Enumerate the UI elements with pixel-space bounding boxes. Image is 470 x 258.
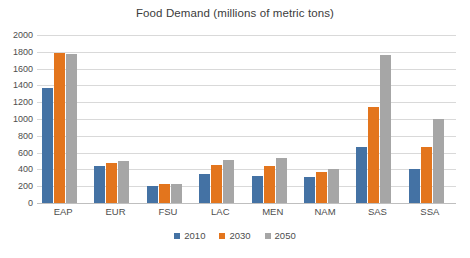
- legend-item[interactable]: 2010: [174, 230, 205, 241]
- legend-label: 2030: [229, 230, 250, 241]
- bar: [421, 147, 432, 203]
- y-axis-tick-label: 1000: [0, 115, 33, 124]
- chart-title: Food Demand (millions of metric tons): [0, 7, 470, 19]
- y-axis-tick-label: 1600: [0, 64, 33, 73]
- legend-item[interactable]: 2050: [265, 230, 296, 241]
- x-axis-tick-label: SAS: [351, 206, 403, 217]
- bar: [252, 176, 263, 203]
- y-axis-tick-label: 400: [0, 165, 33, 174]
- y-axis-tick-label: 600: [0, 148, 33, 157]
- bar-group: [194, 35, 246, 203]
- y-axis-tick-label: 0: [0, 199, 33, 208]
- bar-chart: Food Demand (millions of metric tons) 20…: [0, 0, 470, 258]
- bar: [433, 119, 444, 203]
- x-axis-tick-label: FSU: [142, 206, 194, 217]
- bar: [356, 147, 367, 203]
- bar: [171, 184, 182, 203]
- legend-swatch-icon: [219, 233, 225, 239]
- y-axis-tick-label: 1200: [0, 98, 33, 107]
- bar: [199, 174, 210, 203]
- x-axis: EAPEURFSULACMENNAMSASSSA: [37, 206, 456, 222]
- chart-legend: 201020302050: [0, 230, 470, 241]
- bar: [328, 169, 339, 203]
- bar: [211, 165, 222, 203]
- bar-group: [351, 35, 403, 203]
- bar: [223, 160, 234, 203]
- y-axis-tick-label: 1800: [0, 47, 33, 56]
- axis-baseline: [37, 203, 456, 204]
- bar-group: [37, 35, 89, 203]
- bar: [94, 166, 105, 203]
- bar: [380, 55, 391, 203]
- bar-group: [404, 35, 456, 203]
- bar: [66, 54, 77, 203]
- y-axis-tick-label: 2000: [0, 31, 33, 40]
- y-axis-tick-label: 800: [0, 131, 33, 140]
- legend-label: 2050: [275, 230, 296, 241]
- bar-group: [89, 35, 141, 203]
- y-axis: 2000180016001400120010008006004002000: [0, 35, 33, 203]
- legend-label: 2010: [184, 230, 205, 241]
- bar: [147, 186, 158, 203]
- bar-group: [142, 35, 194, 203]
- bar: [264, 166, 275, 203]
- legend-swatch-icon: [174, 233, 180, 239]
- x-axis-tick-label: EUR: [90, 206, 142, 217]
- bar: [276, 158, 287, 203]
- y-axis-tick-label: 200: [0, 182, 33, 191]
- bar: [409, 169, 420, 203]
- bar: [42, 88, 53, 204]
- bar: [54, 53, 65, 203]
- x-axis-tick-label: EAP: [37, 206, 89, 217]
- legend-swatch-icon: [265, 233, 271, 239]
- bar: [316, 172, 327, 203]
- x-axis-tick-label: LAC: [194, 206, 246, 217]
- x-axis-tick-label: NAM: [299, 206, 351, 217]
- bar: [118, 161, 129, 203]
- y-axis-tick-label: 1400: [0, 81, 33, 90]
- legend-item[interactable]: 2030: [219, 230, 250, 241]
- bar: [106, 163, 117, 203]
- bar: [159, 184, 170, 203]
- bar: [368, 107, 379, 203]
- bars-layer: [37, 35, 456, 203]
- bar: [304, 177, 315, 203]
- bar-group: [299, 35, 351, 203]
- bar-group: [247, 35, 299, 203]
- x-axis-tick-label: MEN: [247, 206, 299, 217]
- x-axis-tick-label: SSA: [404, 206, 456, 217]
